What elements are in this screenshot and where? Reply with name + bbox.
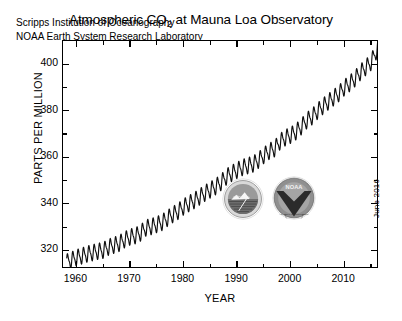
y-tick-minor-right	[374, 227, 378, 228]
x-tick-label: 2010	[321, 272, 365, 284]
y-tick-major	[63, 110, 69, 111]
noaa-seal-icon: NOAA U.S. DEPT. OF COMMERCE	[272, 176, 316, 220]
x-tick-minor	[103, 264, 104, 268]
x-tick-major-top	[129, 41, 130, 47]
scripps-seal-icon	[222, 178, 264, 220]
x-tick-major	[344, 261, 345, 267]
y-tick-major-right	[371, 250, 377, 251]
co2-curve	[63, 41, 377, 267]
x-tick-minor-top	[156, 41, 157, 45]
y-tick-label: 320	[18, 242, 58, 254]
y-tick-minor	[63, 180, 67, 181]
y-tick-major	[63, 250, 69, 251]
x-tick-major-top	[183, 41, 184, 47]
x-tick-major	[129, 261, 130, 267]
x-axis-title: YEAR	[62, 292, 378, 304]
x-tick-major	[290, 261, 291, 267]
x-tick-minor-top	[103, 41, 104, 45]
y-tick-minor-right	[374, 133, 378, 134]
y-axis-title: PARTS PER MILLION	[32, 28, 44, 228]
x-tick-major	[183, 261, 184, 267]
x-tick-minor	[210, 264, 211, 268]
plot-inner	[63, 41, 377, 267]
x-tick-major	[76, 261, 77, 267]
y-tick-major-right	[371, 64, 377, 65]
plot-area	[62, 40, 378, 268]
y-tick-minor	[63, 87, 67, 88]
x-tick-minor	[263, 264, 264, 268]
date-stamp: June 2016	[372, 179, 381, 218]
chart-page: Atmospheric CO2 at Mauna Loa Observatory…	[0, 0, 402, 321]
x-tick-major-top	[236, 41, 237, 47]
x-tick-minor-top	[263, 41, 264, 45]
x-tick-label: 1990	[214, 272, 258, 284]
noaa-wordmark: NOAA	[286, 184, 303, 190]
annotation-block: Scripps Institution of Oceanography NOAA…	[16, 16, 203, 43]
x-tick-minor	[156, 264, 157, 268]
y-tick-major	[63, 157, 69, 158]
y-tick-minor	[63, 227, 67, 228]
y-tick-minor	[63, 133, 67, 134]
y-tick-major	[63, 64, 69, 65]
x-tick-major-top	[344, 41, 345, 47]
x-tick-minor-top	[370, 41, 371, 45]
y-tick-major	[63, 203, 69, 204]
x-tick-label: 1980	[161, 272, 205, 284]
x-tick-minor-top	[317, 41, 318, 45]
x-tick-minor	[317, 264, 318, 268]
x-tick-label: 1960	[53, 272, 97, 284]
noaa-ring-text: U.S. DEPT. OF COMMERCE	[278, 213, 310, 216]
x-tick-label: 1970	[107, 272, 151, 284]
x-tick-major-top	[76, 41, 77, 47]
annotation-line-scripps: Scripps Institution of Oceanography	[16, 16, 203, 30]
x-tick-minor-top	[210, 41, 211, 45]
y-tick-major-right	[371, 157, 377, 158]
x-tick-label: 2000	[268, 272, 312, 284]
x-tick-major	[236, 261, 237, 267]
x-tick-major-top	[290, 41, 291, 47]
y-tick-major-right	[371, 110, 377, 111]
y-tick-minor-right	[374, 87, 378, 88]
x-tick-minor	[370, 264, 371, 268]
